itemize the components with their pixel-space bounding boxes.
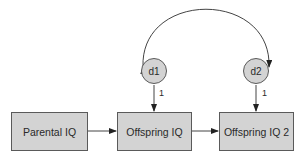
node-label: Offspring IQ 2 (224, 126, 289, 138)
node-label: d2 (250, 66, 261, 77)
node-label: d1 (148, 66, 159, 77)
node-offspring-iq-2: Offspring IQ 2 (219, 112, 294, 151)
node-label: Parental IQ (23, 126, 76, 138)
node-d2: d2 (243, 58, 269, 84)
node-label: Offspring IQ (126, 126, 182, 138)
node-d1: d1 (141, 58, 167, 84)
node-offspring-iq: Offspring IQ (117, 112, 192, 151)
path-label-d2: 1 (262, 88, 267, 98)
path-label-d1: 1 (159, 88, 164, 98)
node-parental-iq: Parental IQ (11, 112, 88, 151)
